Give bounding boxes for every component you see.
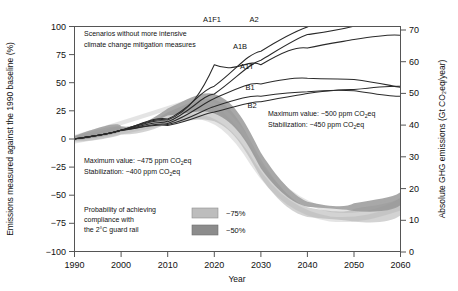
curve-label-b1: B1: [245, 83, 254, 92]
y-left-tick-25: 25: [56, 106, 66, 116]
y-left-tick-75: 75: [56, 50, 66, 60]
y-left-tick-neg100: −100: [46, 247, 66, 257]
y-right-tick-0: 0: [409, 247, 414, 257]
y-right-tick-50: 50: [409, 88, 419, 98]
note-500ppm: Maximum value: ~500 ppm CO2eq Stabilizat…: [268, 110, 375, 130]
y-right-tick-20: 20: [409, 184, 419, 194]
figure-container: 100 75 50 25 0 −25 −50 −75 −100 70 60 50…: [0, 0, 458, 291]
curve-label-a2: A2: [249, 15, 258, 24]
note-475-line1: Maximum value: ~475 ppm CO: [84, 157, 181, 165]
y-right-tick-70: 70: [409, 25, 419, 35]
note-475-line2: Stabilization: ~400 ppm CO: [84, 168, 170, 176]
note-475-eq1: eq: [184, 157, 192, 165]
note-475-eq2: eq: [172, 168, 180, 176]
x-tick-1990: 1990: [64, 260, 84, 270]
y-left-tick-neg75: −75: [51, 218, 66, 228]
note-500-eq1: eq: [368, 110, 376, 118]
curve-label-a1f1: A1F1: [203, 15, 221, 24]
note-500-eq2: eq: [356, 121, 364, 129]
scenarios-note-line1: Scenarios without more intensive: [84, 30, 187, 37]
y-right-tick-30: 30: [409, 152, 419, 162]
y-left-tick-0: 0: [61, 134, 66, 144]
legend-swatch-50: [192, 225, 218, 235]
x-tick-2040: 2040: [297, 260, 317, 270]
y-axis-left-title: Emissions measured against the 1990 base…: [5, 42, 15, 236]
x-tick-2020: 2020: [204, 260, 224, 270]
curve-label-a1t: A1T: [240, 62, 254, 71]
x-tick-2060: 2060: [390, 260, 410, 270]
ghg-emissions-chart: 100 75 50 25 0 −25 −50 −75 −100 70 60 50…: [0, 0, 458, 291]
y-right-tick-10: 10: [409, 215, 419, 225]
y-left-tick-neg50: −50: [51, 190, 66, 200]
x-tick-2050: 2050: [344, 260, 364, 270]
y-right-tick-60: 60: [409, 57, 419, 67]
x-tick-2030: 2030: [251, 260, 271, 270]
x-axis-title: Year: [228, 274, 245, 284]
legend-swatch-75: [192, 208, 218, 218]
y-right-tick-40: 40: [409, 120, 419, 130]
legend-label-50: ~50%: [226, 226, 246, 235]
note-500-line1: Maximum value: ~500 ppm CO: [268, 110, 365, 118]
x-tick-2000: 2000: [111, 260, 131, 270]
legend-title-line1: Probability of achieving: [84, 206, 156, 214]
curve-label-b2: B2: [247, 101, 256, 110]
legend-title-line3: the 2°C guard rail: [84, 226, 139, 234]
scenarios-note-line2: climate change mitigation measures: [84, 41, 196, 49]
y-left-tick-50: 50: [56, 78, 66, 88]
y-axis-right-title: Absolute GHG emissions (Gt CO₂eq/year): [437, 59, 447, 218]
y-left-tick-neg25: −25: [51, 162, 66, 172]
note-475ppm: Maximum value: ~475 ppm CO2eq Stabilizat…: [84, 157, 191, 177]
note-500-line2: Stabilization: ~450 ppm CO: [268, 121, 354, 129]
legend-title-line2: compliance with: [84, 216, 134, 224]
legend-label-75: ~75%: [226, 209, 246, 218]
y-left-tick-100: 100: [51, 22, 66, 32]
x-tick-2010: 2010: [158, 260, 178, 270]
curve-label-a1b: A1B: [233, 42, 247, 51]
chart-background: [0, 0, 458, 291]
